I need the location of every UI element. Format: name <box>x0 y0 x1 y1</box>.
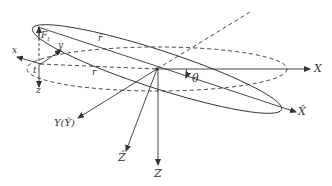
label-local-x: x <box>12 46 17 55</box>
label-local-t: t <box>33 66 37 75</box>
y-axis <box>78 69 157 118</box>
local-x-arrow <box>17 57 41 64</box>
label-Ft: Ft <box>41 31 50 42</box>
node-line <box>157 12 250 69</box>
label-Y: Y(Ŷ) <box>54 118 75 128</box>
label-Z-hat: Ẑ <box>118 152 126 163</box>
diagram-svg <box>0 0 332 186</box>
z-hat-axis <box>126 69 157 151</box>
label-local-z: z <box>36 86 41 95</box>
label-r-hat: r̂ <box>98 34 102 43</box>
label-Z: Z <box>154 168 162 179</box>
center-point <box>156 68 158 70</box>
orbit-diagram: X X̂ Y(Ŷ) Ẑ Z θ r r̂ Ft x y z t <box>0 0 332 186</box>
label-X-hat: X̂ <box>298 106 306 117</box>
theta-arc <box>186 69 187 78</box>
label-local-y: y <box>58 41 63 50</box>
label-Ft-sub: t <box>47 35 49 42</box>
local-y-arrow <box>41 50 61 64</box>
label-theta: θ <box>192 73 199 84</box>
x-hat-axis <box>38 27 296 112</box>
label-r: r <box>92 68 96 77</box>
label-X: X <box>314 63 322 74</box>
